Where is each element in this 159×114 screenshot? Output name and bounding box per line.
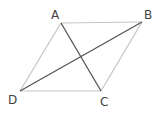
edge-da bbox=[20, 23, 61, 91]
parallelogram-diagram: A B C D bbox=[0, 0, 159, 114]
edge-bc bbox=[101, 22, 142, 91]
vertex-label-c: C bbox=[100, 95, 108, 109]
vertex-label-b: B bbox=[144, 8, 152, 22]
diagonals bbox=[20, 22, 142, 91]
edge-ab bbox=[61, 22, 142, 23]
diagonal-db bbox=[20, 22, 142, 91]
vertex-label-d: D bbox=[8, 93, 17, 107]
vertex-label-a: A bbox=[51, 8, 60, 22]
